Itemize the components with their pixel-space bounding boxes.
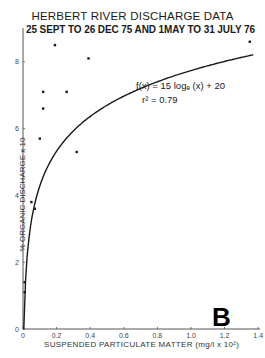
data-point xyxy=(42,107,44,109)
panel-label: B xyxy=(212,302,231,333)
x-tick-label: 1.0 xyxy=(186,332,196,339)
x-tick-label: 1.4 xyxy=(253,332,263,339)
data-point xyxy=(249,41,251,43)
data-points xyxy=(23,41,251,294)
r-squared: r² = 0.79 xyxy=(142,94,178,105)
x-axis-label: SUSPENDED PARTICULATE MATTER (mg/l x 10²… xyxy=(44,340,239,349)
x-tick-label: 0.8 xyxy=(153,332,163,339)
data-point xyxy=(65,91,67,93)
x-tick-label: 0 xyxy=(21,332,25,339)
data-point xyxy=(42,91,44,93)
x-tick-label: 1.2 xyxy=(220,332,230,339)
x-tick-label: 0.2 xyxy=(52,332,62,339)
data-point xyxy=(30,201,32,203)
y-tick-label: 2 xyxy=(15,259,19,266)
y-axis-label: % ORGANIC DISCHARGE x 10 xyxy=(18,135,27,255)
data-point xyxy=(34,208,36,210)
data-point xyxy=(87,57,89,59)
data-point xyxy=(76,151,78,153)
fit-equation: f(x) = 15 logₑ (x) + 20 xyxy=(136,80,225,91)
data-point xyxy=(39,137,41,139)
axes: 00.20.40.60.81.01.21.402468 xyxy=(15,28,263,339)
y-tick-label: 6 xyxy=(15,125,19,132)
x-tick-label: 0.6 xyxy=(119,332,129,339)
data-point xyxy=(23,281,25,283)
fit-curve xyxy=(24,55,253,329)
x-tick-label: 0.4 xyxy=(85,332,95,339)
y-tick-label: 0 xyxy=(15,326,19,333)
data-point xyxy=(23,291,25,293)
y-tick-label: 8 xyxy=(15,58,19,65)
data-point xyxy=(54,44,56,46)
